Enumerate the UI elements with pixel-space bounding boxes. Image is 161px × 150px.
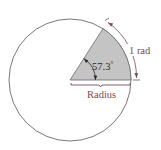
radius-label: Radius xyxy=(87,89,116,100)
angle-label: 57.3° xyxy=(92,60,113,72)
arc-arrowhead-bottom-icon xyxy=(134,73,138,78)
radian-diagram: 57.3° 1 rad Radius xyxy=(0,0,161,150)
arc-end-tick-top xyxy=(105,18,109,21)
arc-label: 1 rad xyxy=(129,45,151,56)
